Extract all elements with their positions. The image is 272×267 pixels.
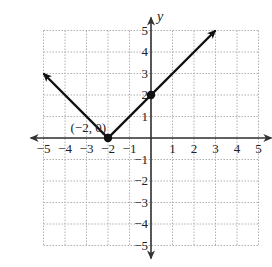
x-tick-label: 1 xyxy=(169,141,176,156)
x-axis-label: x xyxy=(271,120,272,135)
x-tick-label: −4 xyxy=(58,141,72,156)
x-tick-label: 4 xyxy=(234,141,241,156)
y-tick-label: −2 xyxy=(134,173,148,188)
x-tick-label: 3 xyxy=(212,141,219,156)
y-tick-label: 5 xyxy=(142,23,149,38)
x-tick-label: −3 xyxy=(80,141,94,156)
y-tick-label: 4 xyxy=(142,44,149,59)
x-tick-label: 5 xyxy=(255,141,262,156)
x-tick-label: −5 xyxy=(37,141,51,156)
data-point xyxy=(147,91,155,99)
y-tick-label: −3 xyxy=(134,195,148,210)
y-tick-label: −1 xyxy=(134,152,148,167)
x-tick-label: 2 xyxy=(191,141,198,156)
x-tick-label: −2 xyxy=(101,141,115,156)
y-tick-label: −4 xyxy=(134,216,148,231)
point-label: (−2, 0) xyxy=(71,120,107,135)
y-tick-label: −5 xyxy=(134,238,148,253)
annotations: (−2, 0) xyxy=(71,120,107,135)
data-point xyxy=(104,134,112,142)
absolute-value-graph: xy −5−4−3−2−112345−5−4−3−2−112345 (−2, 0… xyxy=(0,0,272,267)
y-axis-label: y xyxy=(155,9,164,24)
axes: xy xyxy=(31,9,272,259)
y-tick-label: 1 xyxy=(142,109,149,124)
y-tick-label: 3 xyxy=(142,66,149,81)
